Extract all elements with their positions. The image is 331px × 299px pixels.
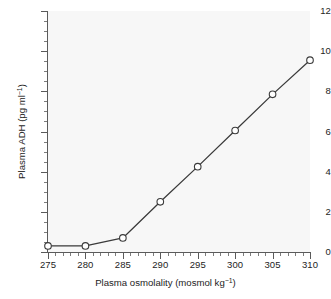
y-axis-title-main: Plasma ADH (pg ml [16, 95, 27, 179]
y-axis-minor-tick [44, 202, 47, 203]
x-axis-minor-tick [258, 253, 259, 256]
y-axis-minor-tick [44, 232, 47, 233]
x-axis-minor-tick [243, 253, 244, 256]
x-axis-line [47, 252, 311, 253]
x-axis-minor-tick [250, 253, 251, 256]
x-axis-tick-label: 310 [293, 259, 327, 270]
x-axis-tick-label: 285 [106, 259, 140, 270]
y-axis-minor-tick [44, 71, 47, 72]
y-axis-tick-label: 4 [295, 166, 331, 177]
y-axis-minor-tick [44, 182, 47, 183]
y-axis-minor-tick [44, 111, 47, 112]
x-axis-minor-tick [265, 253, 266, 256]
y-axis-tick [41, 252, 47, 253]
x-axis-minor-tick [288, 253, 289, 256]
y-axis-line [47, 11, 48, 253]
x-axis-tick-label: 280 [68, 259, 102, 270]
x-axis-minor-tick [93, 253, 94, 256]
plot-area [48, 11, 310, 252]
y-axis-minor-tick [44, 61, 47, 62]
x-axis-minor-tick [55, 253, 56, 256]
x-axis-minor-tick [153, 253, 154, 256]
y-axis-minor-tick [44, 152, 47, 153]
y-axis-minor-tick [44, 192, 47, 193]
y-axis-tick [41, 172, 47, 173]
y-axis-tick [41, 132, 47, 133]
y-axis-tick-label: 6 [295, 126, 331, 137]
x-axis-minor-tick [190, 253, 191, 256]
x-axis-minor-tick [213, 253, 214, 256]
x-axis-minor-tick [78, 253, 79, 256]
y-axis-minor-tick [44, 162, 47, 163]
x-axis-minor-tick [183, 253, 184, 256]
x-axis-tick-label: 275 [31, 259, 65, 270]
y-axis-tick [41, 91, 47, 92]
x-axis-minor-tick [70, 253, 71, 256]
x-axis-minor-tick [63, 253, 64, 256]
x-axis-minor-tick [138, 253, 139, 256]
y-axis-tick-label: 10 [295, 45, 331, 56]
y-axis-tick-label: 2 [295, 206, 331, 217]
y-axis-tick [41, 11, 47, 12]
y-axis-minor-tick [44, 242, 47, 243]
y-axis-minor-tick [44, 121, 47, 122]
y-axis-tick [41, 51, 47, 52]
y-axis-minor-tick [44, 142, 47, 143]
x-axis-tick-label: 290 [143, 259, 177, 270]
x-axis-tick-label: 295 [181, 259, 215, 270]
x-axis-minor-tick [228, 253, 229, 256]
y-axis-title: Plasma ADH (pg ml−1) [16, 7, 27, 257]
y-axis-minor-tick [44, 21, 47, 22]
x-axis-minor-tick [145, 253, 146, 256]
y-axis-title-exponent: −1 [16, 87, 23, 95]
x-axis-title-main: Plasma osmolality (mosmol kg [95, 277, 225, 288]
y-axis-minor-tick [44, 81, 47, 82]
y-axis-tick-label: 0 [295, 246, 331, 257]
x-axis-minor-tick [115, 253, 116, 256]
x-axis-tick-label: 300 [218, 259, 252, 270]
y-axis-tick [41, 212, 47, 213]
figure: 275280285290295300305310024681012 Plasma… [0, 0, 331, 299]
x-axis-minor-tick [100, 253, 101, 256]
x-axis-minor-tick [130, 253, 131, 256]
x-axis-minor-tick [175, 253, 176, 256]
x-axis-minor-tick [220, 253, 221, 256]
x-axis-title-exponent: −1 [225, 277, 233, 284]
x-axis-title-tail: ) [233, 277, 236, 288]
x-axis-minor-tick [205, 253, 206, 256]
x-axis-minor-tick [108, 253, 109, 256]
y-axis-minor-tick [44, 101, 47, 102]
y-axis-minor-tick [44, 222, 47, 223]
y-axis-minor-tick [44, 31, 47, 32]
x-axis-minor-tick [168, 253, 169, 256]
x-axis-minor-tick [280, 253, 281, 256]
y-axis-tick-label: 12 [295, 5, 331, 16]
x-axis-title: Plasma osmolality (mosmol kg−1) [0, 277, 331, 288]
y-axis-tick-label: 8 [295, 85, 331, 96]
y-axis-minor-tick [44, 41, 47, 42]
x-axis-tick-label: 305 [256, 259, 290, 270]
